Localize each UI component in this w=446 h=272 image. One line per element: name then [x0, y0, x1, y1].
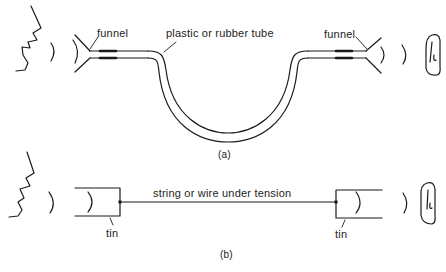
- right-funnel: [308, 38, 381, 73]
- rubber-tube: [148, 51, 308, 142]
- left-funnel: [75, 35, 148, 72]
- right-funnel-label: funnel: [324, 29, 355, 40]
- sound-wave-icon: [49, 192, 53, 213]
- sound-wave-icon: [402, 45, 406, 64]
- sound-wave-icon: [403, 193, 407, 213]
- panel-a-caption: (a): [218, 149, 231, 160]
- speaker-face-icon: [9, 152, 34, 217]
- panel-b-caption: (b): [220, 249, 233, 260]
- listener-ear-icon: [421, 183, 435, 224]
- tube-label: plastic or rubber tube: [166, 28, 274, 39]
- right-tin: [336, 190, 382, 218]
- sound-wave-icon: [73, 40, 78, 63]
- left-tin: [75, 188, 120, 216]
- diagram-canvas: [0, 0, 446, 272]
- string-label: string or wire under tension: [153, 188, 291, 199]
- speaker-face-icon: [16, 6, 41, 71]
- right-tin-label: tin: [335, 229, 347, 240]
- listener-ear-icon: [426, 35, 440, 76]
- left-funnel-label: funnel: [97, 28, 128, 39]
- sound-wave-icon: [51, 43, 54, 61]
- sound-wave-icon: [381, 47, 384, 63]
- left-tin-label: tin: [106, 228, 118, 239]
